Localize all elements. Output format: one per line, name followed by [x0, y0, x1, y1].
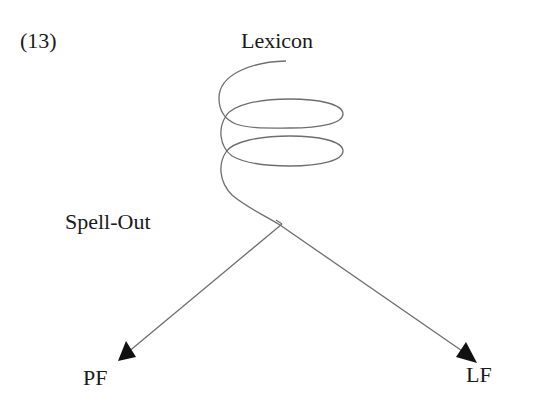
- pf-arrowhead-icon: [118, 341, 136, 361]
- lf-arrowhead-icon: [456, 342, 477, 363]
- lf-branch-line: [280, 225, 468, 355]
- pf-branch-line: [127, 224, 282, 353]
- derivation-diagram: [0, 0, 543, 408]
- spiral-path: [219, 61, 343, 225]
